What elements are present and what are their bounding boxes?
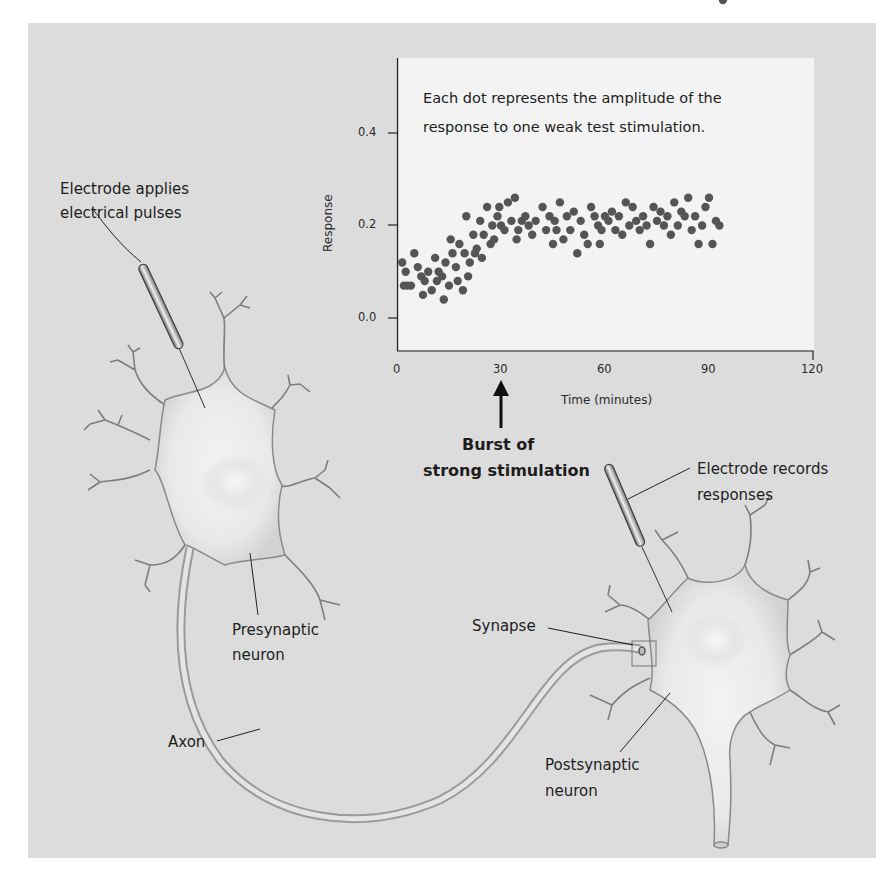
data-point bbox=[688, 226, 696, 234]
data-point bbox=[615, 212, 623, 220]
data-point bbox=[460, 249, 468, 257]
data-point bbox=[455, 240, 463, 248]
data-point bbox=[642, 221, 650, 229]
data-point bbox=[507, 217, 515, 225]
data-point bbox=[473, 244, 481, 252]
data-point bbox=[419, 291, 427, 299]
data-point bbox=[495, 203, 503, 211]
x-tick: 30 bbox=[493, 362, 508, 376]
data-point bbox=[715, 221, 723, 229]
data-point bbox=[525, 221, 533, 229]
data-point bbox=[649, 203, 657, 211]
presynaptic-label-line1: Presynaptic bbox=[232, 621, 319, 640]
data-point bbox=[596, 240, 604, 248]
data-point bbox=[462, 212, 470, 220]
recording-electrode-icon bbox=[603, 463, 672, 612]
data-point bbox=[646, 240, 654, 248]
data-point bbox=[556, 198, 564, 206]
data-point bbox=[639, 212, 647, 220]
data-point bbox=[414, 263, 422, 271]
electrode-records-label-line1: Electrode records bbox=[697, 460, 828, 479]
data-point bbox=[570, 207, 578, 215]
data-point bbox=[490, 235, 498, 243]
data-point bbox=[597, 226, 605, 234]
data-point bbox=[431, 254, 439, 262]
data-point bbox=[670, 198, 678, 206]
data-point bbox=[466, 258, 474, 266]
data-point bbox=[512, 235, 520, 243]
data-point bbox=[493, 212, 501, 220]
data-point bbox=[483, 203, 491, 211]
data-point bbox=[622, 198, 630, 206]
data-point bbox=[708, 240, 716, 248]
data-point bbox=[500, 226, 508, 234]
data-point bbox=[587, 203, 595, 211]
data-point bbox=[424, 268, 432, 276]
data-point bbox=[580, 231, 588, 239]
data-point bbox=[532, 217, 540, 225]
arrow-up-icon bbox=[493, 380, 509, 396]
electrode-applies-label-line2: electrical pulses bbox=[60, 204, 182, 223]
x-tick: 0 bbox=[393, 362, 400, 376]
data-point bbox=[514, 226, 522, 234]
data-point bbox=[549, 240, 557, 248]
data-point bbox=[611, 226, 619, 234]
data-point bbox=[438, 272, 446, 280]
data-point bbox=[428, 286, 436, 294]
data-point bbox=[464, 272, 472, 280]
data-point bbox=[454, 277, 462, 285]
y-tick: 0.0 bbox=[358, 310, 376, 324]
data-point bbox=[552, 226, 560, 234]
y-tick: 0.4 bbox=[358, 125, 376, 139]
data-point bbox=[584, 240, 592, 248]
data-point bbox=[511, 194, 519, 202]
data-point bbox=[563, 212, 571, 220]
data-point bbox=[445, 281, 453, 289]
data-point bbox=[448, 249, 456, 257]
synapse-label: Synapse bbox=[472, 617, 536, 636]
chart-note-line1: Each dot represents the amplitude of the bbox=[423, 88, 722, 109]
electrode-applies-label-line1: Electrode applies bbox=[60, 180, 189, 199]
data-point bbox=[469, 231, 477, 239]
data-point bbox=[538, 203, 546, 211]
postsynaptic-label-line2: neuron bbox=[545, 782, 598, 801]
data-point bbox=[476, 217, 484, 225]
data-point bbox=[577, 217, 585, 225]
stimulating-electrode-icon bbox=[137, 263, 205, 408]
data-point bbox=[410, 249, 418, 257]
postsynaptic-label-line1: Postsynaptic bbox=[545, 756, 640, 775]
data-point bbox=[551, 217, 559, 225]
data-point bbox=[398, 258, 406, 266]
data-point bbox=[653, 217, 661, 225]
data-point bbox=[421, 277, 429, 285]
y-tick: 0.2 bbox=[358, 217, 376, 231]
data-point bbox=[684, 194, 692, 202]
data-point bbox=[480, 231, 488, 239]
data-point bbox=[407, 281, 415, 289]
data-point bbox=[528, 231, 536, 239]
data-point bbox=[660, 221, 668, 229]
data-point bbox=[447, 235, 455, 243]
data-point bbox=[542, 226, 550, 234]
x-tick: 60 bbox=[597, 362, 612, 376]
data-point bbox=[488, 221, 496, 229]
x-tick: 120 bbox=[801, 362, 823, 376]
data-point bbox=[440, 295, 448, 303]
burst-label-line1: Burst of bbox=[462, 434, 534, 455]
data-point bbox=[719, 0, 727, 4]
data-point bbox=[604, 217, 612, 225]
data-point bbox=[452, 263, 460, 271]
data-point bbox=[681, 212, 689, 220]
burst-label-line2: strong stimulation bbox=[423, 460, 590, 481]
axon-label: Axon bbox=[168, 733, 205, 752]
data-point bbox=[566, 226, 574, 234]
data-point bbox=[478, 254, 486, 262]
data-point bbox=[705, 194, 713, 202]
data-point bbox=[608, 207, 616, 215]
data-point bbox=[402, 268, 410, 276]
data-point bbox=[674, 221, 682, 229]
data-point bbox=[632, 217, 640, 225]
data-point bbox=[559, 235, 567, 243]
data-point bbox=[694, 240, 702, 248]
data-point bbox=[701, 203, 709, 211]
